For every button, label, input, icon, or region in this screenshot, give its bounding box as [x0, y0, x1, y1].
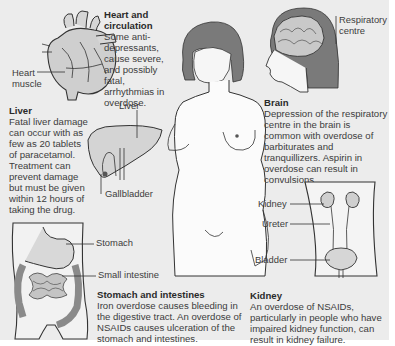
kidney-pointers: [290, 200, 340, 290]
label-ureter: Ureter: [262, 219, 288, 229]
liver-illustration: [86, 120, 166, 180]
stomach-body: Iron overdose causes bleeding in the dig…: [97, 300, 242, 344]
label-respiratory-centre: Respiratory centre: [339, 14, 387, 36]
liver-pointer: [136, 110, 140, 140]
label-stomach: Stomach: [96, 238, 133, 248]
stomach-text: Stomach and intestines Iron overdose cau…: [97, 289, 247, 344]
brain-body: Depression of the respiratory centre in …: [264, 108, 387, 185]
overdose-effects-diagram: Heart muscle Heart and circulation Some …: [0, 0, 395, 346]
head-brain-illustration: [260, 6, 340, 96]
liver-text: Liver Fatal liver damage can occur with …: [9, 105, 89, 215]
liver-body: Fatal liver damage can occur with as few…: [9, 116, 88, 215]
gallbladder-pointer: [100, 174, 104, 196]
label-heart-muscle: Heart muscle: [12, 67, 42, 89]
label-bladder: Bladder: [255, 255, 287, 265]
stomach-pointer: [66, 243, 96, 247]
heart-body: Some anti-depressants, cause severe, and…: [104, 31, 164, 108]
label-liver: Liver: [119, 101, 139, 111]
label-gallbladder: Gallbladder: [105, 189, 153, 199]
kidney-body: An overdose of NSAIDs, particularly in p…: [250, 301, 382, 345]
brain-text: Brain Depression of the respiratory cent…: [264, 97, 389, 185]
label-kidney: Kidney: [258, 199, 287, 209]
digestive-illustration: [11, 221, 91, 341]
kidney-text: Kidney An overdose of NSAIDs, particular…: [250, 290, 385, 345]
label-small-intestine: Small intestine: [98, 270, 159, 280]
small-intestine-pointer: [62, 275, 98, 279]
